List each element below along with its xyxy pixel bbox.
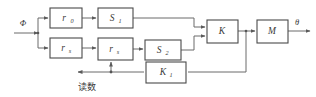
block-s2-rect[interactable] [145,40,181,60]
block-diagram-canvas: r 0 S 1 r s r s S 2 K [0,0,316,97]
block-rs2-rect[interactable] [98,38,133,60]
block-r0-label: r [62,13,66,23]
block-m-label: M [267,26,277,36]
block-k1-label: K [159,67,167,77]
junction-dot-readout-branch [110,71,113,74]
output-signal-label: θ [295,17,299,27]
readout-label: 读数 [78,81,96,92]
block-k1-subscript: 1 [169,71,172,78]
block-rs[interactable]: r s [50,38,82,58]
block-s1[interactable]: S 1 [98,8,133,28]
block-s2-subscript: 2 [165,49,168,56]
block-s2-label: S [157,45,162,55]
diagram-svg: r 0 S 1 r s r s S 2 K [0,0,316,97]
block-k1[interactable]: K 1 [146,62,186,83]
wire-s1-to-k [133,18,205,27]
block-k[interactable]: K [207,20,238,43]
block-s2[interactable]: S 2 [145,40,181,60]
block-r0[interactable]: r 0 [50,8,82,28]
junction-dot-input-split [37,32,40,35]
block-m[interactable]: M [257,20,288,43]
block-s1-subscript: 1 [118,17,121,24]
block-rs-label: r [61,43,65,53]
block-s1-rect[interactable] [98,8,133,28]
wire-s2-to-k [181,36,205,50]
block-rs2[interactable]: r s [98,38,133,60]
block-k-label: K [218,26,226,36]
block-rs2-label: r [109,44,113,54]
input-signal-label: Φ [20,18,27,28]
block-s1-label: S [110,13,115,23]
block-r0-rect[interactable] [50,8,82,28]
junction-dot-feedback-tap [245,30,248,33]
block-rs-rect[interactable] [50,38,82,58]
